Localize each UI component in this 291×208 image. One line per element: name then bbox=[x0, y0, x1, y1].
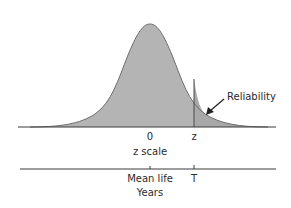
t-label: T bbox=[190, 173, 198, 184]
reliability-arrow-icon bbox=[206, 99, 224, 115]
normal-curve-area bbox=[30, 24, 268, 127]
reliability-tail-area bbox=[194, 78, 268, 127]
reliability-label: Reliability bbox=[227, 91, 276, 102]
reliability-normal-curve-diagram: 0 z z scale Mean life T Years Reliabilit… bbox=[0, 0, 291, 208]
z-axis-zero-label: 0 bbox=[147, 131, 153, 142]
years-label: Years bbox=[136, 187, 163, 198]
z-axis-z-label: z bbox=[191, 131, 196, 142]
mean-life-label: Mean life bbox=[127, 173, 173, 184]
z-scale-label: z scale bbox=[133, 146, 167, 157]
